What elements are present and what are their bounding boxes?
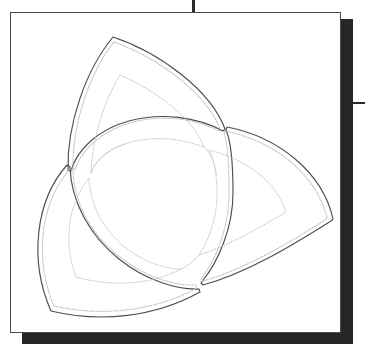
lobe-upper-left-dotted xyxy=(73,42,220,170)
card-shadow-right xyxy=(341,19,353,340)
framed-drawing-card xyxy=(10,12,341,333)
lobe-right-inner-dotted xyxy=(199,150,286,255)
triquetra-figure xyxy=(11,13,342,334)
lobe-right-dotted xyxy=(201,131,327,281)
lobe-lower-left-dotted xyxy=(42,169,197,311)
weave-crossing-bottom xyxy=(181,255,199,269)
weave-crossing-left xyxy=(91,144,125,173)
lobe-right-outline xyxy=(201,127,333,285)
screenshot-canvas xyxy=(0,0,365,344)
lobe-upper-left-inner-dotted xyxy=(91,75,204,173)
lobe-lower-left-inner-dotted xyxy=(69,178,181,283)
lobe-lower-left-outline xyxy=(38,165,200,317)
